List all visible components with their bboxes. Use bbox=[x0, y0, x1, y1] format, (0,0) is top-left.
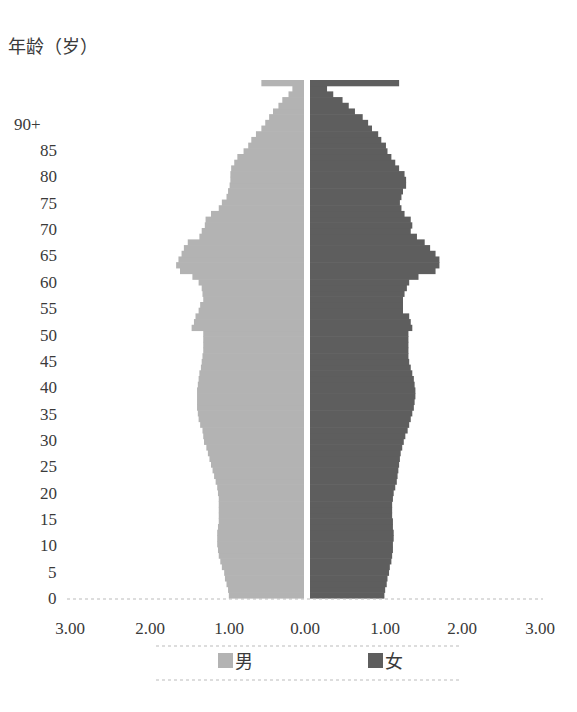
bar-female-age-79 bbox=[310, 143, 386, 149]
bar-female-age-68 bbox=[310, 205, 401, 211]
y-tick-label: 50 bbox=[40, 326, 57, 345]
bar-male-age-21 bbox=[214, 473, 304, 479]
bar-male-age-5 bbox=[222, 564, 304, 570]
bar-male-age-58 bbox=[176, 262, 304, 268]
bar-male-age-15 bbox=[219, 507, 304, 513]
x-tick-label: 3.00 bbox=[525, 619, 555, 638]
bar-male-age-49 bbox=[196, 313, 305, 319]
bar-female-age-8 bbox=[310, 547, 393, 553]
bar-male-age-14 bbox=[219, 513, 304, 519]
bar-female-age-24 bbox=[310, 456, 400, 462]
bar-male-age-27 bbox=[204, 439, 304, 445]
bar-male-age-78 bbox=[244, 148, 304, 154]
x-tick-label: 0.00 bbox=[290, 619, 320, 638]
bar-female-age-77 bbox=[310, 154, 391, 160]
bar-female-age-38 bbox=[310, 376, 414, 382]
bar-female-age-25 bbox=[310, 450, 401, 456]
bar-female-age-28 bbox=[310, 433, 405, 439]
female-bars bbox=[310, 80, 439, 599]
bar-female-age-53 bbox=[310, 291, 405, 297]
bar-male-age-16 bbox=[219, 501, 304, 507]
bar-male-age-51 bbox=[200, 302, 304, 308]
bar-male-age-48 bbox=[194, 319, 304, 325]
bar-male-age-74 bbox=[230, 171, 304, 177]
bar-male-age-88 bbox=[289, 91, 305, 97]
bar-male-age-4 bbox=[224, 570, 304, 576]
bar-male-age-61 bbox=[184, 245, 304, 251]
bar-female-age-54 bbox=[310, 285, 407, 291]
bar-male-age-52 bbox=[203, 296, 304, 302]
bar-male-age-41 bbox=[202, 359, 304, 365]
bar-female-age-45 bbox=[310, 336, 408, 342]
bar-female-age-27 bbox=[310, 439, 404, 445]
bar-female-age-59 bbox=[310, 256, 439, 262]
bar-male-age-67 bbox=[211, 211, 304, 217]
bar-female-age-2 bbox=[310, 581, 387, 587]
bar-male-age-73 bbox=[230, 177, 304, 183]
bar-male-age-35 bbox=[197, 393, 304, 399]
bar-male-age-33 bbox=[197, 404, 304, 410]
bar-female-age-16 bbox=[310, 501, 392, 507]
legend-swatch-female bbox=[368, 653, 383, 668]
bar-female-age-90+ bbox=[310, 80, 399, 86]
bar-female-age-33 bbox=[310, 404, 414, 410]
legend-label-female: 女 bbox=[385, 651, 403, 672]
bar-female-age-49 bbox=[310, 313, 409, 319]
bar-female-age-30 bbox=[310, 422, 409, 428]
bar-male-age-59 bbox=[178, 256, 304, 262]
bar-male-age-7 bbox=[219, 552, 304, 558]
bar-male-age-22 bbox=[213, 467, 304, 473]
bar-male-age-6 bbox=[220, 558, 304, 564]
bar-female-age-7 bbox=[310, 552, 392, 558]
bar-male-age-62 bbox=[188, 239, 304, 245]
y-tick-label: 15 bbox=[40, 510, 57, 529]
bar-female-age-72 bbox=[310, 182, 406, 188]
bar-female-age-44 bbox=[310, 342, 408, 348]
bar-male-age-11 bbox=[217, 530, 304, 536]
bar-male-age-26 bbox=[206, 444, 304, 450]
bar-female-age-80 bbox=[310, 137, 381, 143]
y-tick-label: 90+ bbox=[14, 115, 41, 134]
bar-male-age-28 bbox=[203, 433, 304, 439]
bar-female-age-3 bbox=[310, 575, 388, 581]
bar-male-age-87 bbox=[282, 97, 304, 103]
x-tick-label: 2.00 bbox=[447, 619, 477, 638]
y-tick-label: 60 bbox=[40, 273, 57, 292]
bar-female-age-40 bbox=[310, 365, 411, 371]
bar-male-age-77 bbox=[237, 154, 304, 160]
x-tick-label: 2.00 bbox=[135, 619, 165, 638]
bar-male-age-90+ bbox=[261, 80, 304, 86]
bar-female-age-86 bbox=[310, 103, 349, 109]
bar-female-age-20 bbox=[310, 478, 397, 484]
bar-male-age-17 bbox=[219, 496, 304, 502]
y-tick-label: 40 bbox=[40, 378, 57, 397]
bar-male-age-69 bbox=[222, 200, 304, 206]
y-axis-title: 年龄（岁） bbox=[8, 36, 98, 57]
bar-female-age-46 bbox=[310, 330, 408, 336]
bar-female-age-14 bbox=[310, 513, 392, 519]
bar-male-age-68 bbox=[219, 205, 304, 211]
bar-female-age-75 bbox=[310, 165, 399, 171]
bar-male-age-57 bbox=[180, 268, 304, 274]
bar-male-age-12 bbox=[218, 524, 304, 530]
bar-female-age-21 bbox=[310, 473, 398, 479]
bar-female-age-19 bbox=[310, 484, 395, 490]
bar-female-age-78 bbox=[310, 148, 388, 154]
bar-male-age-72 bbox=[230, 182, 304, 188]
bar-male-age-39 bbox=[199, 370, 304, 376]
bar-female-age-11 bbox=[310, 530, 394, 536]
y-tick-label: 65 bbox=[40, 246, 57, 265]
bar-male-age-47 bbox=[192, 325, 304, 331]
population-pyramid-chart: 年龄（岁） 0510152025303540455055606570758085… bbox=[0, 0, 577, 712]
bar-male-age-54 bbox=[202, 285, 304, 291]
bar-male-age-89 bbox=[292, 86, 304, 92]
bar-female-age-47 bbox=[310, 325, 412, 331]
bar-female-age-36 bbox=[310, 387, 415, 393]
bar-female-age-31 bbox=[310, 416, 411, 422]
y-tick-label: 30 bbox=[40, 431, 57, 450]
bar-male-age-63 bbox=[199, 234, 304, 240]
bar-male-age-82 bbox=[261, 126, 304, 132]
bar-female-age-48 bbox=[310, 319, 411, 325]
y-axis-labels: 051015202530354045505560657075808590+ bbox=[14, 115, 57, 608]
bar-male-age-19 bbox=[217, 484, 304, 490]
